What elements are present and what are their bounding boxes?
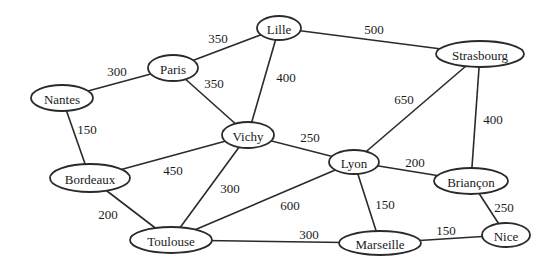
node-label: Marseille <box>355 237 404 252</box>
weighted-graph-diagram: 3505003003504006504001502504503002006001… <box>0 0 557 269</box>
node-nantes: Nantes <box>31 85 93 111</box>
node-label: Briançon <box>447 175 495 190</box>
node-briancon: Briançon <box>434 168 508 194</box>
edge-weight-paris-vichy: 350 <box>204 76 224 91</box>
edge-weight-toulouse-marseille: 300 <box>299 227 319 242</box>
node-vichy: Vichy <box>222 122 274 148</box>
node-bordeaux: Bordeaux <box>50 164 130 192</box>
node-label: Bordeaux <box>65 172 116 187</box>
edge-weight-vichy-lyon: 250 <box>300 130 320 145</box>
node-toulouse: Toulouse <box>130 227 212 253</box>
node-lille: Lille <box>257 16 301 40</box>
edge-weight-strasbourg-briancon: 400 <box>483 112 503 127</box>
edge-weight-bordeaux-toulouse: 200 <box>98 207 118 222</box>
edge-weight-paris-lille: 350 <box>208 31 228 46</box>
node-label: Lyon <box>341 156 368 171</box>
edge-weight-lille-vichy: 400 <box>276 70 296 85</box>
edge-weight-nantes-bordeaux: 150 <box>77 122 97 137</box>
edge-weight-strasbourg-lyon: 650 <box>394 92 414 107</box>
node-label: Toulouse <box>147 234 195 249</box>
edge-weight-lyon-marseille: 150 <box>375 197 395 212</box>
node-label: Nice <box>494 229 519 244</box>
edge-lille-vichy <box>248 28 279 135</box>
edge-weight-lyon-toulouse: 600 <box>280 198 300 213</box>
edge-weight-vichy-toulouse: 300 <box>220 181 240 196</box>
node-lyon: Lyon <box>329 150 379 174</box>
node-label: Vichy <box>233 129 264 144</box>
node-nice: Nice <box>482 223 530 247</box>
graph-canvas: 3505003003504006504001502504503002006001… <box>0 0 557 269</box>
edge-strasbourg-lyon <box>354 54 480 162</box>
node-strasbourg: Strasbourg <box>436 41 524 67</box>
edge-strasbourg-briancon <box>471 54 480 181</box>
edge-weight-marseille-nice: 150 <box>436 223 456 238</box>
node-label: Nantes <box>44 92 80 107</box>
edge-weight-nantes-paris: 300 <box>107 64 127 79</box>
node-label: Lille <box>267 22 292 37</box>
node-paris: Paris <box>148 55 198 81</box>
node-label: Strasbourg <box>452 48 509 63</box>
edge-weight-briancon-nice: 250 <box>494 200 514 215</box>
edge-weight-lille-strasbourg: 500 <box>364 22 384 37</box>
node-marseille: Marseille <box>339 231 421 255</box>
edge-weight-bordeaux-vichy: 450 <box>163 163 183 178</box>
edge-weight-lyon-briancon: 200 <box>405 155 425 170</box>
node-label: Paris <box>160 62 186 77</box>
edge-lyon-toulouse <box>171 162 354 240</box>
